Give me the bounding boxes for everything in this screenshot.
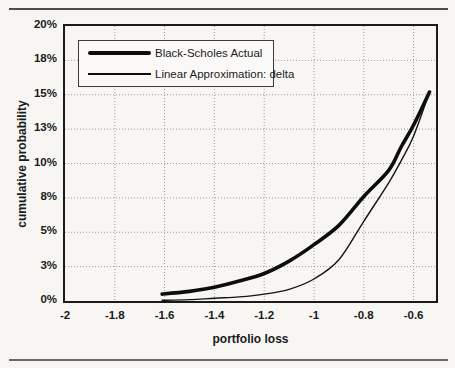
legend-label: Linear Approximation: delta [155,68,294,80]
bottom-rule [9,359,448,361]
thick-line-sample [88,51,151,55]
y-tick-label: 10% [0,156,57,168]
legend-entry-linear-approximation: Linear Approximation: delta [88,66,273,82]
x-tick-label: -1.4 [192,309,236,321]
y-tick-label: 5% [0,224,57,236]
x-tick-label: -0.6 [392,309,436,321]
y-tick-label: 13% [0,121,57,133]
thin-line-sample [88,73,151,75]
figure-canvas: cumulative probability 0%3%5%8%10%13%15%… [0,0,455,368]
legend-entry-black-scholes: Black-Scholes Actual [88,45,273,61]
x-tick-label: -0.8 [342,309,386,321]
y-tick-label: 0% [0,293,57,305]
x-axis-title: portfolio loss [63,332,438,346]
series-line-thick [162,92,429,294]
x-tick-label: -1.6 [143,309,187,321]
top-rule [9,8,448,10]
legend-label: Black-Scholes Actual [155,47,262,59]
y-tick-label: 15% [0,87,57,99]
y-tick-label: 18% [0,52,57,64]
y-tick-label: 3% [0,259,57,271]
x-tick-label: -1.8 [93,309,137,321]
y-tick-label: 8% [0,190,57,202]
x-tick-label: -1.2 [242,309,286,321]
legend: Black-Scholes Actual Linear Approximatio… [78,40,274,87]
x-tick-label: -2 [43,309,87,321]
y-tick-label: 20% [0,18,57,30]
x-tick-label: -1 [292,309,336,321]
series-line-thin [162,92,429,300]
